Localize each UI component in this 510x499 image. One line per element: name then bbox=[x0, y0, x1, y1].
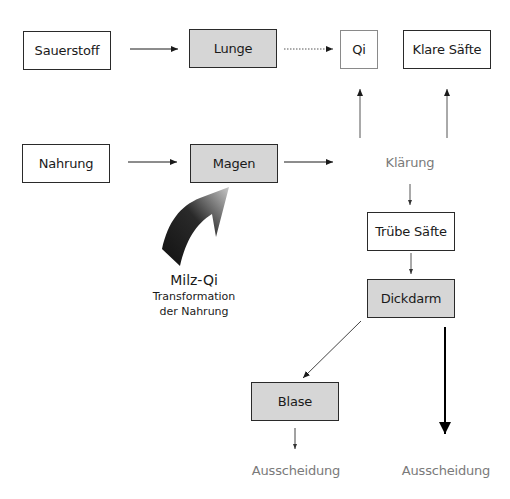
node-klaerung: Klärung bbox=[386, 155, 435, 170]
node-ausscheidung-right: Ausscheidung bbox=[402, 463, 490, 478]
node-sauerstoff: Sauerstoff bbox=[23, 31, 111, 70]
node-klare-saefte: Klare Säfte bbox=[403, 30, 491, 69]
node-qi: Qi bbox=[340, 30, 378, 69]
milz-qi-caption: Milz-Qi Transformation der Nahrung bbox=[153, 272, 236, 319]
milz-qi-line1: Transformation bbox=[153, 289, 236, 304]
node-blase: Blase bbox=[251, 382, 339, 421]
node-magen: Magen bbox=[190, 144, 278, 183]
node-ausscheidung-left: Ausscheidung bbox=[252, 463, 340, 478]
curved-arrow-icon bbox=[162, 187, 229, 266]
node-lunge: Lunge bbox=[189, 29, 277, 68]
node-nahrung: Nahrung bbox=[22, 144, 110, 183]
arrow-dickdarm-blase bbox=[303, 321, 361, 378]
milz-qi-line2: der Nahrung bbox=[153, 304, 236, 319]
node-dickdarm: Dickdarm bbox=[367, 279, 455, 318]
milz-qi-title: Milz-Qi bbox=[153, 272, 236, 289]
node-truebe-saefte: Trübe Säfte bbox=[367, 212, 455, 251]
